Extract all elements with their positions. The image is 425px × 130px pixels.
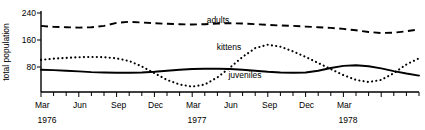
year-label-1978: 1978 (339, 115, 358, 125)
series-label-adults: adults (207, 15, 230, 25)
year-label-1977: 1977 (188, 115, 207, 125)
y-axis-title: total population (1, 23, 11, 81)
x-tick-label-jun-1976: Jun (73, 100, 87, 110)
y-tick-label-160: 160 (22, 35, 36, 45)
series-label-juveniles: juveniles (227, 70, 261, 80)
x-tick-label-dec-1976: Dec (148, 100, 164, 110)
x-tick-label-mar-1977: Mar (186, 100, 201, 110)
x-tick-label-sep-1977: Sep (262, 100, 277, 110)
x-tick-label-sep-1976: Sep (111, 100, 126, 110)
y-tick-label-240: 240 (22, 8, 36, 18)
x-tick-label-mar-1976: Mar (35, 100, 50, 110)
x-tick-label-jun-1977: Jun (224, 100, 238, 110)
y-tick-label-80: 80 (27, 62, 37, 72)
x-tick-label-mar-1978: Mar (337, 100, 352, 110)
chart-svg: total population 240 160 80 (0, 0, 425, 130)
year-label-1976: 1976 (38, 115, 57, 125)
series-label-kittens: kittens (217, 42, 242, 52)
population-chart: total population 240 160 80 (0, 0, 425, 130)
x-tick-label-dec-1977: Dec (299, 100, 315, 110)
series-line-adults (41, 22, 419, 33)
x-axis-ticks (41, 92, 419, 97)
